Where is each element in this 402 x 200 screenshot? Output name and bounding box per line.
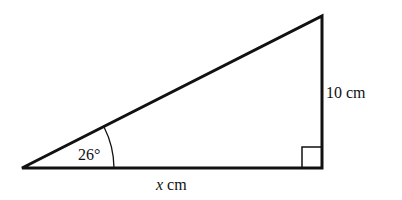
right-angle-marker [302,147,322,168]
angle-arc [104,127,114,168]
triangle-diagram: 26° 10 cm x cm [0,0,402,200]
side-label-opposite: 10 cm [326,84,366,101]
variable-x: x [155,176,163,193]
unit-cm: cm [163,176,187,193]
triangle [22,16,322,168]
angle-label: 26° [78,146,100,163]
side-label-adjacent: x cm [155,176,187,193]
